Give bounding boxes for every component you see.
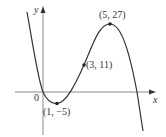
- point-label-min: (1, −5): [43, 106, 70, 118]
- y-axis-label: y: [33, 4, 39, 15]
- origin-label: 0: [34, 92, 39, 103]
- x-axis-label: x: [152, 94, 158, 105]
- point-local-min: [55, 102, 59, 106]
- chart-figure: y x 0 (1, −5) (3, 11) (5, 27): [0, 0, 166, 137]
- point-label-inflection: (3, 11): [86, 59, 112, 71]
- point-label-max: (5, 27): [99, 9, 126, 21]
- point-local-max: [108, 22, 112, 26]
- y-axis-arrow-icon: [41, 6, 46, 13]
